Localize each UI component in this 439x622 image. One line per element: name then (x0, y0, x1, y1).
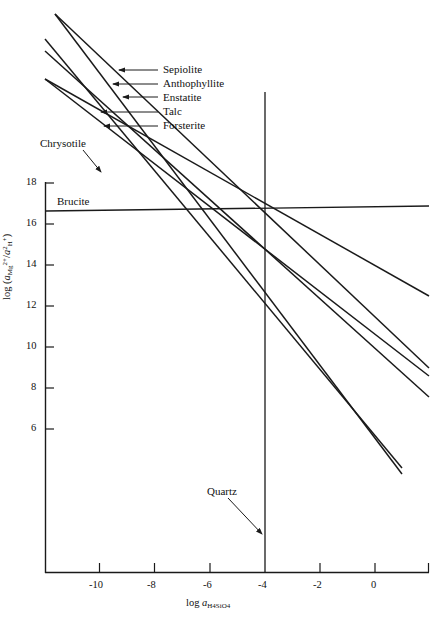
y-tick-label-10: 10 (26, 341, 37, 352)
series-line-brucite (46, 206, 429, 211)
x-tick-label--2: -2 (313, 580, 322, 591)
y-axis-title: log (aMg2+/a2H+) (2, 234, 14, 300)
y-tick-label-6: 6 (31, 423, 36, 434)
y-tick-label-12: 12 (26, 300, 37, 311)
y-axis-ticks (46, 183, 55, 429)
series-label-brucite: Brucite (57, 196, 89, 207)
series-label-talc: Talc (163, 106, 182, 117)
y-tick-label-18: 18 (26, 177, 37, 188)
x-tick-label--8: -8 (147, 580, 156, 591)
y-tick-label-16: 16 (26, 218, 37, 229)
axes (45, 182, 429, 573)
series-label-anthophyllite: Anthophyllite (163, 78, 224, 89)
series-line-enstatite (45, 51, 429, 397)
series-label-sepiolite: Sepiolite (163, 64, 202, 75)
x-tick-label--6: -6 (203, 580, 212, 591)
x-axis-title: log aH4SiO4 (186, 598, 230, 610)
chart-canvas (0, 0, 439, 622)
activity-diagram-figure: Sepiolite Anthophyllite Enstatite Talc F… (0, 0, 439, 622)
y-tick-label-8: 8 (31, 382, 36, 393)
x-tick-label--4: -4 (258, 580, 267, 591)
mineral-stability-lines (45, 14, 429, 573)
x-tick-label-0: 0 (371, 580, 376, 591)
label-leader-lines (83, 70, 262, 534)
series-line-anthophyllite (45, 39, 402, 468)
series-line-forsterite (45, 79, 429, 376)
x-axis-ticks (100, 563, 429, 573)
y-tick-label-14: 14 (26, 259, 37, 270)
leader-chrysotile (83, 150, 101, 172)
leader-quartz (228, 498, 262, 534)
series-label-enstatite: Enstatite (163, 92, 202, 103)
x-tick-label--10: -10 (89, 580, 103, 591)
series-label-forsterite: Forsterite (163, 120, 205, 131)
vertical-line-label-quartz: Quartz (207, 486, 237, 497)
series-label-chrysotile: Chrysotile (40, 138, 86, 149)
